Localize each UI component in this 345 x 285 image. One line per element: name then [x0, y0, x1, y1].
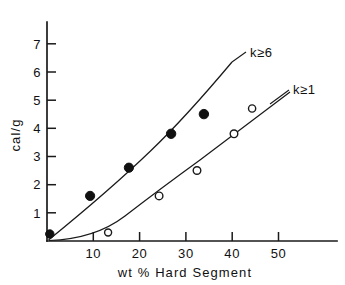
- series-curve-k6: [49, 62, 233, 240]
- y-tick-label: 5: [33, 93, 41, 108]
- series-markers-k6: [46, 109, 209, 238]
- x-tick-label: 50: [271, 246, 287, 261]
- data-point-open: [193, 167, 201, 175]
- x-tick-label: 40: [224, 246, 240, 261]
- y-tick-label: 1: [33, 206, 41, 221]
- data-point-open: [249, 105, 256, 112]
- x-tick-label: 10: [85, 246, 101, 261]
- data-point-open: [105, 229, 112, 236]
- y-tick-label: 3: [33, 149, 41, 164]
- x-tick-label: 20: [132, 246, 148, 261]
- y-tick-label: 7: [33, 37, 41, 52]
- data-point-open: [155, 192, 163, 200]
- series-curve-k1: [49, 92, 290, 241]
- x-axis-title: wt % Hard Segment: [117, 265, 252, 280]
- x-tick-label: 30: [178, 246, 194, 261]
- data-point-filled: [166, 129, 175, 138]
- data-point-filled: [86, 191, 95, 200]
- data-point-filled: [124, 163, 133, 172]
- data-point-filled: [46, 230, 54, 238]
- y-tick-label: 2: [33, 177, 41, 192]
- y-tick-label: 6: [33, 65, 41, 80]
- leader-line-k1: [270, 90, 289, 104]
- y-axis-title: cal/g: [8, 119, 23, 152]
- series-label-k1: k≥1: [293, 82, 315, 97]
- scatter-plot: 1 2 3 4 5 6 7 10 20 30 40 50 wt % Hard S…: [0, 0, 345, 285]
- chart-figure: 1 2 3 4 5 6 7 10 20 30 40 50 wt % Hard S…: [0, 0, 345, 285]
- series-label-k6: k≥6: [250, 45, 272, 60]
- leader-line-k6: [232, 52, 246, 62]
- data-point-open: [230, 130, 238, 138]
- y-tick-label: 4: [33, 121, 41, 136]
- data-point-filled: [199, 109, 208, 118]
- x-axis-tick-labels: 10 20 30 40 50: [85, 246, 286, 261]
- y-axis-ticks: [47, 44, 56, 213]
- y-axis-tick-labels: 1 2 3 4 5 6 7: [33, 37, 41, 221]
- x-axis-ticks: [93, 232, 278, 241]
